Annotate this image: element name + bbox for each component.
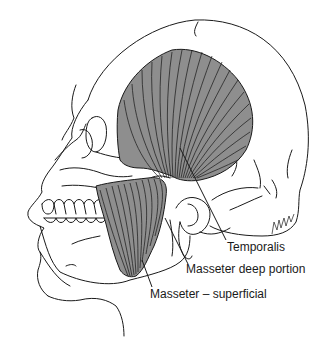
skull-illustration <box>0 0 325 356</box>
temporalis-muscle <box>117 49 253 180</box>
artist-signature <box>272 214 294 234</box>
label-masseter-superficial: Masseter – superficial <box>150 288 267 300</box>
anatomy-figure: Temporalis Masseter deep portion Massete… <box>0 0 325 356</box>
neck-outline <box>48 296 124 336</box>
face-profile <box>28 100 88 296</box>
label-masseter-deep-portion: Masseter deep portion <box>186 263 305 275</box>
label-temporalis: Temporalis <box>227 241 285 253</box>
masseter-muscle <box>96 178 166 277</box>
masseter-deep-leader <box>165 218 188 264</box>
masseter-superficial-leader <box>142 260 152 287</box>
